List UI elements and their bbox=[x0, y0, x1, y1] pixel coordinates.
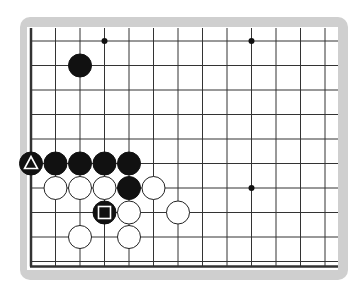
black-stone[interactable] bbox=[44, 152, 67, 175]
star-point-icon bbox=[249, 185, 255, 191]
white-stone[interactable] bbox=[118, 226, 141, 249]
black-stone[interactable] bbox=[69, 152, 92, 175]
black-stone[interactable] bbox=[93, 201, 116, 224]
white-stone[interactable] bbox=[69, 226, 92, 249]
white-stone[interactable] bbox=[118, 201, 141, 224]
black-stone[interactable] bbox=[118, 177, 141, 200]
black-stone[interactable] bbox=[69, 54, 92, 77]
white-stone[interactable] bbox=[167, 201, 190, 224]
black-stone[interactable] bbox=[93, 152, 116, 175]
star-point-icon bbox=[249, 38, 255, 44]
go-board[interactable] bbox=[0, 0, 361, 293]
white-stone[interactable] bbox=[93, 177, 116, 200]
white-stone[interactable] bbox=[142, 177, 165, 200]
star-point-icon bbox=[102, 38, 108, 44]
white-stone[interactable] bbox=[69, 177, 92, 200]
black-stone[interactable] bbox=[118, 152, 141, 175]
white-stone[interactable] bbox=[44, 177, 67, 200]
